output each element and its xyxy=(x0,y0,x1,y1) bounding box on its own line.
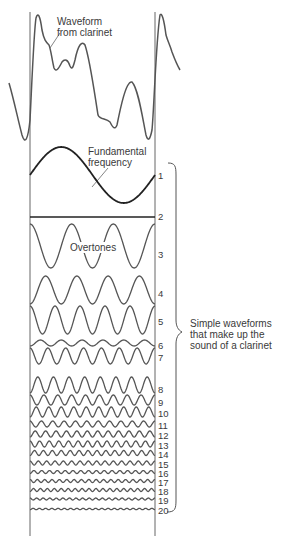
waveform-label: Waveform from clarinet xyxy=(57,16,112,38)
harmonic-number-9: 9 xyxy=(158,398,163,408)
harmonic-wave-6 xyxy=(30,340,155,346)
harmonic-number-7: 7 xyxy=(158,353,163,363)
harmonic-wave-15 xyxy=(30,461,155,465)
harmonic-number-3: 3 xyxy=(158,250,163,260)
harmonic-wave-19 xyxy=(30,498,155,500)
clarinet-harmonics-diagram xyxy=(0,0,285,541)
harmonic-number-8: 8 xyxy=(158,385,163,395)
harmonic-number-5: 5 xyxy=(158,317,163,327)
harmonic-wave-13 xyxy=(30,441,155,447)
fundamental-label: Fundamental frequency xyxy=(88,146,146,168)
harmonic-number-10: 10 xyxy=(158,409,169,419)
harmonic-number-1: 1 xyxy=(158,171,163,181)
bracket-label: Simple waveforms that make up the sound … xyxy=(190,318,272,351)
harmonic-wave-20 xyxy=(30,508,155,509)
waveform-label-line2: from clarinet xyxy=(57,27,112,38)
harmonic-number-6: 6 xyxy=(158,341,163,351)
harmonic-wave-12 xyxy=(30,431,155,437)
fundamental-label-line2: frequency xyxy=(88,157,146,168)
fundamental-label-line1: Fundamental xyxy=(88,146,146,157)
harmonic-wave-17 xyxy=(30,480,155,483)
harmonic-waveforms xyxy=(30,147,155,510)
harmonic-wave-5 xyxy=(30,306,155,334)
harmonic-wave-7 xyxy=(30,348,155,364)
bracket-label-line3: sound of a clarinet xyxy=(190,340,272,351)
harmonic-wave-18 xyxy=(30,489,155,492)
harmonic-wave-9 xyxy=(30,395,155,405)
bracket xyxy=(167,163,182,512)
harmonic-number-4: 4 xyxy=(158,289,163,299)
harmonic-wave-10 xyxy=(30,407,155,417)
harmonic-wave-16 xyxy=(30,471,155,474)
overtones-label: Overtones xyxy=(69,242,117,253)
bracket-label-line1: Simple waveforms xyxy=(190,318,272,329)
harmonic-wave-8 xyxy=(30,377,155,393)
harmonic-number-20: 20 xyxy=(158,506,169,516)
bracket-label-line2: that make up the xyxy=(190,329,272,340)
harmonic-wave-14 xyxy=(30,451,155,456)
waveform-label-line1: Waveform xyxy=(57,16,112,27)
harmonic-number-2: 2 xyxy=(158,212,163,222)
harmonic-wave-11 xyxy=(30,421,155,427)
harmonic-wave-4 xyxy=(30,276,155,304)
